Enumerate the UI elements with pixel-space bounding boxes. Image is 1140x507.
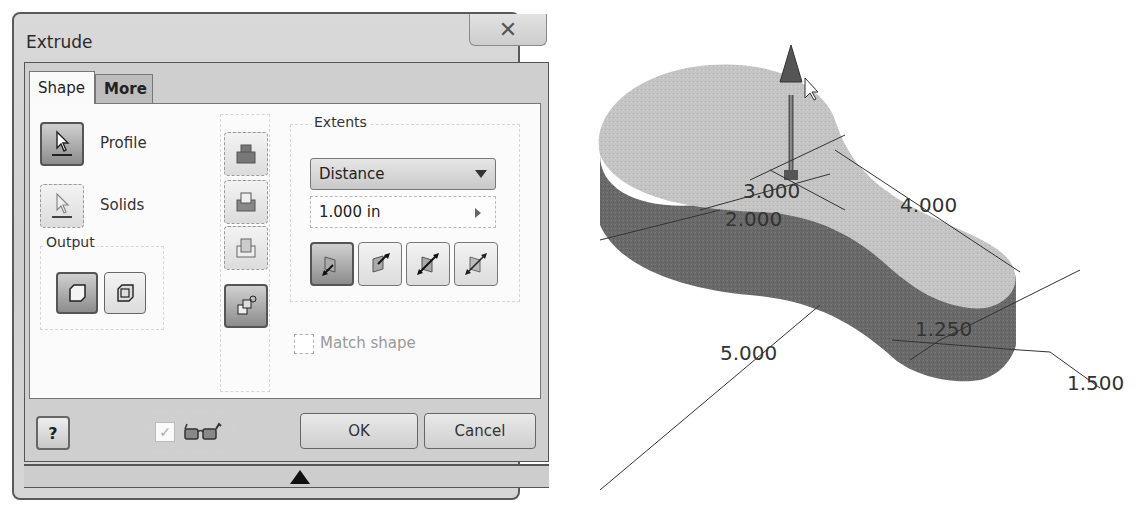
direction-2-icon [367, 251, 393, 277]
solids-cursor-icon [49, 191, 75, 221]
direction-1-icon [319, 251, 345, 277]
output-label: Output [44, 234, 97, 250]
extents-content: Distance 1.000 in [290, 104, 520, 304]
solids-select-button[interactable] [40, 184, 84, 228]
asymmetric-icon [463, 251, 489, 277]
solid-cube-icon [65, 281, 89, 305]
extents-type-value: Distance [319, 165, 385, 183]
match-shape-label: Match shape [320, 334, 416, 352]
solids-label: Solids [100, 196, 144, 214]
dialog-title: Extrude [26, 32, 92, 52]
ok-button[interactable]: OK [300, 413, 418, 449]
dim-4000: 4.000 [900, 193, 957, 217]
intersect-button[interactable] [224, 226, 268, 270]
distance-input[interactable]: 1.000 in [310, 196, 496, 228]
cut-icon [234, 190, 258, 214]
join-button[interactable] [224, 132, 268, 176]
direction-1-button[interactable] [310, 242, 354, 286]
join-icon [234, 142, 258, 166]
cut-button[interactable] [224, 180, 268, 224]
expand-up-arrow-icon[interactable] [290, 470, 310, 484]
surface-cube-icon [113, 281, 137, 305]
shape-panel: Profile Solids Output [29, 103, 541, 399]
help-icon: ? [48, 424, 57, 443]
cancel-button[interactable]: Cancel [424, 413, 536, 449]
preview-glasses-icon [183, 421, 223, 443]
extruded-part-graphic: 3.000 2.000 4.000 5.000 1.250 1.500 [580, 0, 1140, 507]
help-button[interactable]: ? [36, 416, 70, 450]
tab-frame: Shape More Profile Solids Output [24, 62, 549, 462]
preview-checkbox[interactable]: ✓ [155, 422, 175, 442]
collapse-bar[interactable] [24, 464, 549, 488]
intersect-icon [234, 236, 258, 260]
profile-cursor-icon [49, 129, 75, 159]
dim-5000: 5.000 [720, 341, 777, 365]
profile-select-button[interactable] [40, 122, 84, 166]
preview-group: ✓ [146, 412, 234, 452]
tab-more[interactable]: More [95, 74, 153, 103]
symmetric-icon [415, 251, 441, 277]
profile-label: Profile [100, 134, 147, 152]
dim-3000: 3.000 [743, 179, 800, 203]
close-button[interactable]: ✕ [469, 14, 547, 46]
dim-1500: 1.500 [1067, 371, 1124, 395]
symmetric-button[interactable] [406, 242, 450, 286]
distance-value: 1.000 in [319, 203, 380, 221]
output-surface-button[interactable] [104, 272, 146, 314]
expand-arrow-icon[interactable] [475, 208, 481, 218]
dim-2000: 2.000 [725, 207, 782, 231]
match-shape-checkbox[interactable] [294, 334, 314, 354]
dim-1250: 1.250 [915, 317, 972, 341]
model-viewport[interactable]: 3.000 2.000 4.000 5.000 1.250 1.500 [580, 0, 1140, 507]
new-solid-button[interactable] [224, 284, 268, 328]
new-solid-icon [233, 293, 259, 319]
asymmetric-button[interactable] [454, 242, 498, 286]
tab-shape[interactable]: Shape [29, 71, 95, 104]
dropdown-arrow-icon [475, 170, 487, 178]
output-solid-button[interactable] [56, 272, 98, 314]
direction-2-button[interactable] [358, 242, 402, 286]
extents-type-dropdown[interactable]: Distance [310, 158, 496, 190]
close-icon: ✕ [499, 17, 517, 42]
extrude-dialog: Extrude ✕ Shape More Profile Solids [12, 12, 520, 500]
